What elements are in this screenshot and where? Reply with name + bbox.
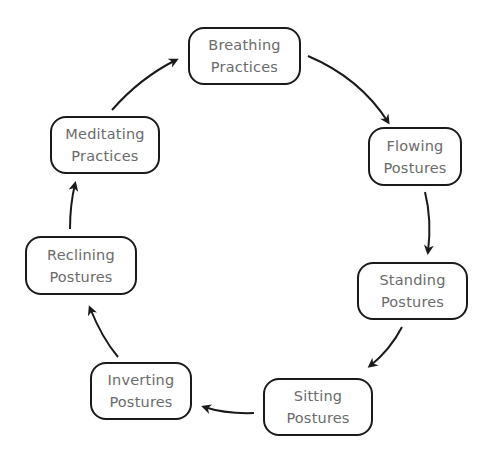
node-inverting-postures: Inverting Postures	[90, 362, 192, 420]
node-label-line1: Meditating	[65, 123, 144, 145]
arrow-breathing-to-flowing	[308, 56, 388, 122]
node-label-line2: Postures	[49, 266, 112, 288]
yoga-cycle-diagram: Breathing Practices Flowing Postures Sta…	[0, 0, 492, 465]
node-label-line2: Postures	[383, 157, 446, 179]
node-flowing-postures: Flowing Postures	[368, 127, 462, 186]
node-label-line2: Postures	[381, 291, 444, 313]
node-reclining-postures: Reclining Postures	[25, 236, 137, 295]
node-label-line2: Practices	[211, 56, 278, 78]
arrow-inverting-to-reclining	[90, 308, 118, 357]
node-sitting-postures: Sitting Postures	[263, 378, 373, 436]
node-label-line2: Practices	[71, 145, 138, 167]
arrow-standing-to-sitting	[370, 327, 402, 366]
node-label-line1: Flowing	[387, 135, 444, 157]
node-label-line1: Sitting	[294, 385, 342, 407]
node-label-line1: Breathing	[208, 34, 281, 56]
arrow-meditating-to-breathing	[112, 60, 176, 110]
node-label-line1: Inverting	[108, 369, 175, 391]
node-breathing-practices: Breathing Practices	[188, 27, 301, 85]
node-label-line1: Reclining	[47, 244, 115, 266]
node-label-line2: Postures	[109, 391, 172, 413]
node-meditating-practices: Meditating Practices	[50, 116, 160, 174]
arrow-sitting-to-inverting	[204, 407, 254, 413]
node-standing-postures: Standing Postures	[357, 262, 468, 320]
node-label-line1: Standing	[379, 269, 445, 291]
arrow-reclining-to-meditating	[70, 184, 75, 229]
node-label-line2: Postures	[286, 407, 349, 429]
arrow-flowing-to-standing	[425, 192, 429, 252]
